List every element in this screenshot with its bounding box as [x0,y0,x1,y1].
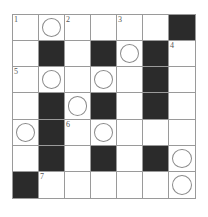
grid-cell[interactable] [169,120,195,146]
clue-number: 1 [14,15,18,24]
grid-cell[interactable] [13,93,39,119]
grid-cell[interactable] [91,15,117,41]
circled-cell[interactable] [117,41,143,67]
black-square [13,172,39,198]
circled-cell[interactable] [169,172,195,198]
grid-cell[interactable] [169,67,195,93]
grid-cell[interactable] [117,120,143,146]
grid-cell[interactable] [13,146,39,172]
grid-cell[interactable] [143,172,169,198]
clue-number: 2 [66,15,70,24]
black-square [39,146,65,172]
circle-icon [16,123,35,142]
grid-cell[interactable]: 7 [39,172,65,198]
grid-cell[interactable] [65,146,91,172]
black-square [91,146,117,172]
black-square [39,41,65,67]
grid-cell[interactable]: 1 [13,15,39,41]
clue-number: 4 [170,41,174,50]
grid-cell[interactable] [117,93,143,119]
crossword-grid: 1234567 [12,14,196,199]
circled-cell[interactable] [65,93,91,119]
circle-icon [172,175,192,195]
grid-cell[interactable] [13,41,39,67]
grid-cell[interactable] [117,67,143,93]
grid-cell[interactable]: 3 [117,15,143,41]
grid-cell[interactable]: 4 [169,41,195,67]
grid-cell[interactable] [65,41,91,67]
clue-number: 6 [66,120,70,129]
grid-cell[interactable] [91,172,117,198]
clue-number: 5 [14,67,18,76]
black-square [143,93,169,119]
circle-icon [94,123,113,142]
grid-cell[interactable] [117,146,143,172]
circled-cell[interactable] [39,15,65,41]
black-square [143,67,169,93]
grid-cell[interactable] [143,15,169,41]
clue-number: 3 [118,15,122,24]
black-square [143,146,169,172]
circle-icon [120,44,139,63]
black-square [143,41,169,67]
circle-icon [94,70,113,89]
circled-cell[interactable] [91,67,117,93]
circle-icon [42,70,61,89]
black-square [91,41,117,67]
grid-cell[interactable]: 2 [65,15,91,41]
grid-cell[interactable] [117,172,143,198]
black-square [91,93,117,119]
grid-cell[interactable]: 6 [65,120,91,146]
grid-cell[interactable]: 5 [13,67,39,93]
circled-cell[interactable] [13,120,39,146]
clue-number: 7 [40,172,44,181]
circle-icon [42,18,61,37]
circle-icon [68,96,87,115]
circled-cell[interactable] [39,67,65,93]
black-square [169,15,195,41]
black-square [39,93,65,119]
circled-cell[interactable] [169,146,195,172]
black-square [39,120,65,146]
grid-cell[interactable] [65,172,91,198]
grid-cell[interactable] [65,67,91,93]
grid-cell[interactable] [169,93,195,119]
circled-cell[interactable] [91,120,117,146]
circle-icon [172,149,192,168]
grid-cell[interactable] [143,120,169,146]
